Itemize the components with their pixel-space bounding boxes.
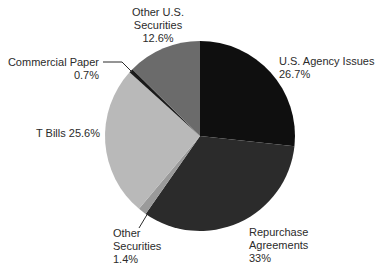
label-other-securities-value: 1.4%	[113, 253, 161, 266]
label-other-securities-line1: Other	[113, 227, 161, 240]
label-repurchase-agreements: Repurchase Agreements 33%	[249, 226, 308, 265]
label-other-us-securities: Other U.S. Securities 12.6%	[122, 6, 194, 45]
label-other-securities-line2: Securities	[113, 240, 161, 253]
label-repurchase-line2: Agreements	[249, 239, 308, 252]
label-commercial-paper-name: Commercial Paper	[8, 56, 99, 69]
label-repurchase-value: 33%	[249, 252, 308, 265]
label-repurchase-line1: Repurchase	[249, 226, 308, 239]
commercial-paper-leader-line	[103, 62, 132, 72]
label-t-bills-text: T Bills 25.6%	[36, 127, 100, 140]
label-other-us-line1: Other U.S.	[122, 6, 194, 19]
label-us-agency-issues: U.S. Agency Issues 26.7%	[279, 55, 374, 81]
label-other-us-line2: Securities	[122, 19, 194, 32]
label-commercial-paper-value: 0.7%	[8, 69, 99, 82]
label-t-bills: T Bills 25.6%	[36, 127, 100, 140]
pie-slices	[105, 41, 295, 231]
label-us-agency-issues-value: 26.7%	[279, 68, 374, 81]
other-securities-leader-line	[139, 213, 148, 228]
label-commercial-paper: Commercial Paper 0.7%	[8, 56, 99, 82]
label-us-agency-issues-name: U.S. Agency Issues	[279, 55, 374, 68]
label-other-securities: Other Securities 1.4%	[113, 227, 161, 266]
label-other-us-value: 12.6%	[122, 32, 194, 45]
